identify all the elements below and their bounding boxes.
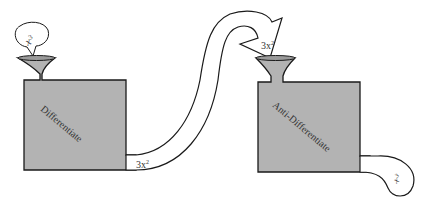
diagram-canvas: x3 Differentiate 3x2 3x2 Anti-Differenti…: [0, 0, 430, 208]
differentiate-machine: [18, 56, 136, 171]
anti-differentiate-machine: [256, 56, 414, 197]
